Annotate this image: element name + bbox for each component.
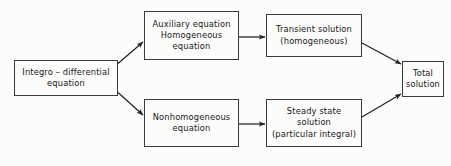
node-nonhomogeneous-equation: Nonhomogeneous equation (144, 99, 239, 147)
edge-steady-to-total (362, 94, 401, 117)
node-text-line: Homogeneous (161, 30, 223, 41)
node-text-line: Transient solution (276, 24, 352, 35)
node-auxiliary-equation: Auxiliary equation Homogeneous equation (144, 11, 239, 60)
node-text-line: equation (173, 41, 211, 52)
node-text-line: (homogeneous) (280, 36, 347, 47)
node-text-line: equation (173, 123, 211, 134)
node-text-line: Total (413, 68, 433, 79)
node-transient-solution: Transient solution (homogeneous) (266, 14, 362, 57)
edge-integro-to-nonhomogeneous (118, 93, 143, 116)
node-text-line: equation (47, 78, 85, 89)
node-text-line: Nonhomogeneous (153, 112, 231, 123)
edge-transient-to-total (362, 43, 401, 64)
node-text-line: solution (406, 79, 440, 90)
node-steady-state-solution: Steady state solution (particular integr… (266, 99, 362, 147)
node-text-line: solution (297, 117, 331, 128)
node-text-line: Steady state (287, 106, 341, 117)
node-text-line: (particular integral) (272, 129, 356, 140)
edge-integro-to-auxiliary (118, 42, 143, 64)
node-text-line: Auxiliary equation (152, 19, 230, 30)
node-total-solution: Total solution (402, 61, 444, 97)
node-integro-differential-equation: Integro – differential equation (14, 60, 118, 96)
node-text-line: Integro – differential (22, 67, 109, 78)
flowchart-diagram: Integro – differential equation Auxiliar… (0, 0, 451, 166)
